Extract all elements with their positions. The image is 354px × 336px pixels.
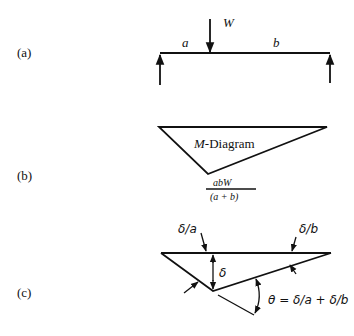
angle-label: θ = δ/a + δ/b xyxy=(268,293,349,307)
peak-numerator: abW xyxy=(213,177,233,188)
left-rotation-pointer-icon xyxy=(201,233,206,251)
moment-diagram-label: M-Diagram xyxy=(193,136,255,151)
deflection-label: δ xyxy=(219,266,226,280)
panel-c: (c) δ δ/a δ/b θ = δ/a + δ/b xyxy=(17,222,349,315)
tangent-extension-line xyxy=(218,295,254,315)
panel-a: (a) W a b xyxy=(17,15,330,85)
span-right-label: b xyxy=(273,35,280,50)
panel-c-label: (c) xyxy=(17,285,31,300)
span-left-label: a xyxy=(182,35,189,50)
panel-b: (b) M-Diagram abW (a + b) xyxy=(17,127,327,203)
load-label: W xyxy=(223,15,235,30)
peak-denominator: (a + b) xyxy=(210,191,239,203)
deflected-shape xyxy=(161,253,331,291)
left-rotation-label: δ/a xyxy=(178,222,197,236)
beam-diagram: (a) W a b (b) M-Diagram abW (a + b) (c) … xyxy=(0,0,354,336)
right-rotation-pointer-icon xyxy=(292,237,296,251)
right-slope-pointer-icon xyxy=(290,265,296,274)
left-slope-pointer-icon xyxy=(184,282,198,293)
panel-a-label: (a) xyxy=(17,45,31,60)
panel-b-label: (b) xyxy=(17,168,32,183)
angle-arc-icon xyxy=(255,279,259,313)
right-rotation-label: δ/b xyxy=(299,222,318,236)
